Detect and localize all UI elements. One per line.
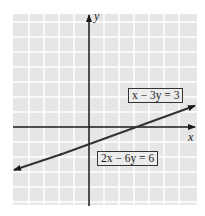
equation-label-2: 2x − 6y = 6 [97,151,158,166]
y-axis-label: y [94,9,99,24]
grid-background [13,14,197,205]
coordinate-plane [0,0,205,216]
equation-label-1: x − 3y = 3 [128,88,183,103]
x-axis-label: x [188,130,193,145]
